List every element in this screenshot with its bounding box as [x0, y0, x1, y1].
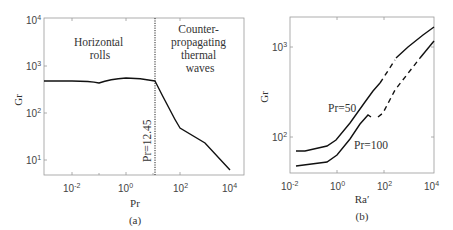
panel-a-ytick-1e3: 103 [26, 60, 41, 72]
panel-b-curve-pr100-solid-2 [420, 41, 434, 58]
panel-a-threshold-label: Pr=12.45 [141, 119, 153, 162]
panel-a-ylabel: Gr [12, 94, 24, 106]
panel-b-xtick-1e0: 100 [330, 180, 345, 192]
panel-b-ytick-1e3: 103 [272, 41, 287, 53]
panel-a-xtick-1e-2: 10-2 [63, 182, 80, 194]
panel-b-label-pr50: Pr=50 [328, 102, 356, 114]
panel-a-ytick-1e1: 101 [26, 154, 41, 166]
panel-b-xlabel: Ra′ [355, 193, 370, 205]
figure: 104 103 102 101 10-2 100 102 104 Gr Pr (… [0, 0, 453, 230]
panel-b-xtick-1e2: 102 [377, 180, 392, 192]
panel-b-ylabel: Gr [258, 91, 270, 103]
panel-a-xtick-1e4: 104 [222, 182, 237, 194]
panel-b: 103 102 10-2 100 102 104 Gr Ra′ (b) Pr=5… [258, 17, 439, 223]
panel-b-curve-pr50-dashed [380, 60, 395, 83]
panel-a-ytick-1e2: 102 [26, 107, 41, 119]
panel-a-xlabel: Pr [130, 197, 140, 209]
panel-b-xtick-1e-2: 10-2 [281, 180, 298, 192]
panel-a-region-left: Horizontal rolls [74, 36, 126, 61]
panel-b-ytick-1e2: 102 [272, 131, 287, 143]
panel-b-caption: (b) [356, 210, 369, 223]
panel-a-ytick-1e4: 104 [26, 14, 41, 26]
panel-a: 104 103 102 101 10-2 100 102 104 Gr Pr (… [12, 14, 244, 227]
panel-a-xtick-1e2: 102 [173, 182, 188, 194]
panel-a-caption: (a) [129, 214, 142, 227]
panel-a-xtick-1e0: 100 [118, 182, 133, 194]
panel-b-curve-pr50-solid-2 [396, 27, 434, 58]
panel-b-xtick-1e4: 104 [424, 180, 439, 192]
panel-a-curve [44, 78, 230, 170]
panel-a-region-right: Counter- propagating thermal waves [171, 23, 229, 74]
panel-b-curve-pr100-dashed [378, 58, 420, 117]
panel-b-label-pr100: Pr=100 [354, 139, 388, 151]
